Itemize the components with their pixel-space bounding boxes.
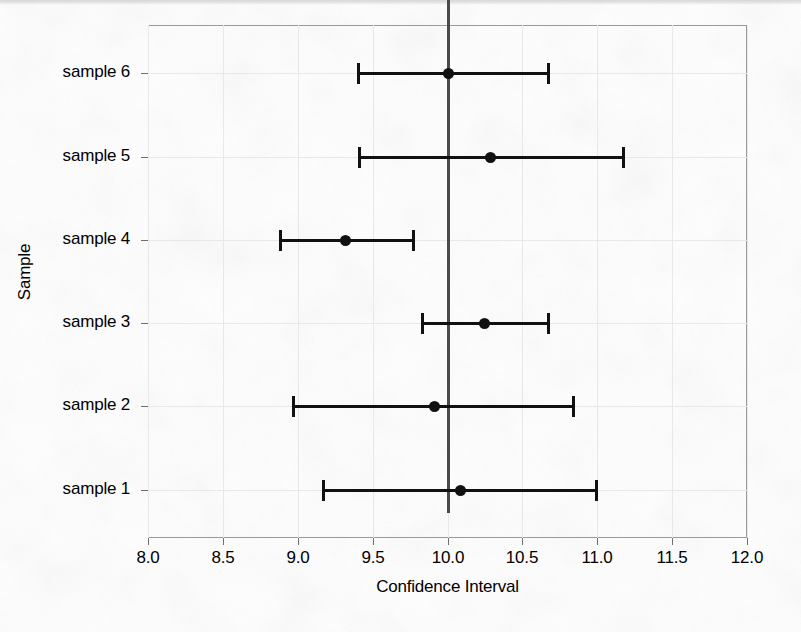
x-axis-tick-label: 11.5 [637, 548, 707, 568]
x-axis-tick-label: 10.5 [487, 548, 557, 568]
error-bar-cap-lower [279, 230, 282, 251]
y-axis-tick [141, 490, 148, 491]
error-bar-cap-lower [421, 313, 424, 334]
x-axis-tick-label: 9.0 [263, 548, 333, 568]
error-bar-cap-upper [547, 313, 550, 334]
x-axis-tick [522, 538, 523, 545]
x-axis-tick [223, 538, 224, 545]
y-axis-tick-label: sample 5 [0, 146, 130, 166]
error-bar-cap-lower [292, 396, 295, 417]
y-axis-tick [141, 240, 148, 241]
gridline-vertical [298, 25, 299, 538]
error-bar-cap-upper [572, 396, 575, 417]
y-axis-label: Sample [15, 202, 35, 342]
error-bar-cap-upper [622, 147, 625, 168]
gridline-vertical [148, 25, 149, 538]
x-axis-tick [148, 538, 149, 545]
x-axis-tick-label: 10.0 [413, 548, 483, 568]
x-axis-tick [448, 538, 449, 545]
x-axis-tick-label: 8.0 [113, 548, 183, 568]
gridline-vertical [747, 25, 748, 538]
x-axis-label: Confidence Interval [148, 577, 747, 597]
gridline-vertical [522, 25, 523, 538]
error-bar-cap-upper [412, 230, 415, 251]
y-axis-tick-label: sample 6 [0, 62, 130, 82]
gridline-vertical [672, 25, 673, 538]
error-bar-cap-lower [322, 480, 325, 501]
x-axis-tick [672, 538, 673, 545]
error-bar-cap-upper [547, 63, 550, 84]
error-bar-cap-upper [595, 480, 598, 501]
y-axis-tick [141, 406, 148, 407]
x-axis-tick [373, 538, 374, 545]
y-axis-tick [141, 157, 148, 158]
error-bar-cap-lower [358, 147, 361, 168]
x-axis-tick [597, 538, 598, 545]
y-axis-tick-label: sample 1 [0, 479, 130, 499]
x-axis-tick [747, 538, 748, 545]
x-axis-tick-label: 12.0 [712, 548, 782, 568]
x-axis-tick-label: 8.5 [188, 548, 258, 568]
point-estimate-marker [429, 401, 440, 412]
gridline-vertical [223, 25, 224, 538]
gridline-vertical [597, 25, 598, 538]
error-bar-cap-lower [357, 63, 360, 84]
y-axis-tick-label: sample 2 [0, 395, 130, 415]
gridline-vertical [373, 25, 374, 538]
x-axis-tick-label: 9.5 [338, 548, 408, 568]
x-axis-tick [298, 538, 299, 545]
confidence-interval-plot: 8.08.59.09.510.010.511.011.512.0 sample … [0, 0, 801, 632]
y-axis-tick [141, 73, 148, 74]
x-axis-tick-label: 11.0 [562, 548, 632, 568]
y-axis-tick [141, 323, 148, 324]
